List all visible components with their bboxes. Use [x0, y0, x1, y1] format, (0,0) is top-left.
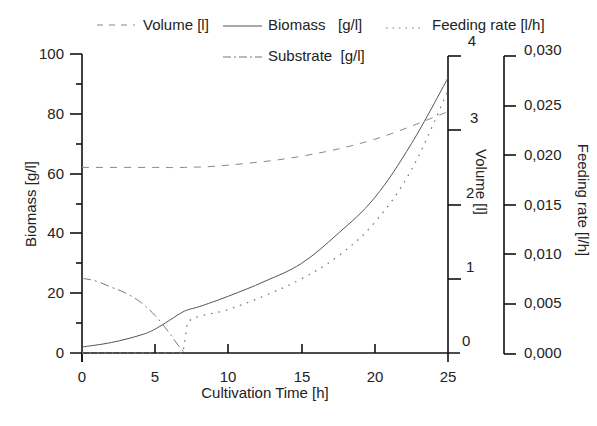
x-axis-ticks: 0 5 10 15 20 25 — [78, 368, 457, 385]
svg-text:1: 1 — [466, 258, 474, 275]
feeding-axis — [504, 56, 516, 354]
svg-text:0,010: 0,010 — [524, 245, 562, 262]
left-axis — [70, 54, 82, 362]
x-axis — [70, 344, 460, 362]
feeding-axis-ticks: 0,030 0,025 0,020 0,015 0,010 0,005 0,00… — [524, 41, 562, 361]
left-axis-ticks: 100 80 60 40 20 0 — [39, 45, 64, 361]
svg-text:10: 10 — [220, 368, 237, 385]
chart-canvas: Volume [l] Biomass [g/l] Feeding rate [l… — [0, 0, 597, 426]
legend-biomass-label: Biomass [g/l] — [268, 16, 362, 33]
left-axis-label: Biomass [g/l] — [22, 161, 39, 247]
svg-text:0,020: 0,020 — [524, 146, 562, 163]
svg-text:0,015: 0,015 — [524, 196, 562, 213]
svg-text:4: 4 — [468, 32, 476, 49]
volume-axis — [448, 56, 461, 353]
svg-text:0: 0 — [462, 332, 470, 349]
svg-text:0,025: 0,025 — [524, 96, 562, 113]
svg-text:0: 0 — [56, 344, 64, 361]
legend-feeding-label: Feeding rate [l/h] — [432, 16, 545, 33]
substrate-line — [82, 278, 185, 353]
feeding-axis-label: Feeding rate [l/h] — [575, 144, 592, 257]
svg-text:0,000: 0,000 — [524, 344, 562, 361]
svg-text:0,005: 0,005 — [524, 294, 562, 311]
series-layer — [82, 78, 448, 353]
svg-text:3: 3 — [470, 109, 478, 126]
svg-text:25: 25 — [440, 368, 457, 385]
svg-text:0: 0 — [78, 368, 86, 385]
svg-text:60: 60 — [47, 165, 64, 182]
svg-text:100: 100 — [39, 45, 64, 62]
legend-substrate-label: Substrate [g/l] — [268, 47, 365, 64]
svg-text:0,030: 0,030 — [524, 41, 562, 58]
svg-text:80: 80 — [47, 105, 64, 122]
volume-axis-label: Volume [l] — [473, 149, 490, 215]
svg-text:20: 20 — [367, 368, 384, 385]
legend-volume-label: Volume [l] — [143, 16, 209, 33]
svg-text:15: 15 — [294, 368, 311, 385]
volume-line — [82, 112, 448, 168]
svg-text:5: 5 — [151, 368, 159, 385]
legend: Volume [l] Biomass [g/l] Feeding rate [l… — [97, 16, 545, 64]
biomass-line — [82, 78, 448, 347]
feeding-rate-line — [82, 91, 448, 353]
x-axis-label: Cultivation Time [h] — [201, 384, 329, 401]
svg-text:20: 20 — [47, 284, 64, 301]
svg-text:40: 40 — [47, 224, 64, 241]
